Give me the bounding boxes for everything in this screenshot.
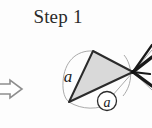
right-arrow-outline-icon <box>0 80 22 98</box>
figure-panel: Step 1 <box>0 0 152 128</box>
angle-label: a <box>104 95 111 110</box>
geometry-diagram: a a <box>0 0 152 128</box>
side-length-label: a <box>64 67 73 86</box>
angle-label-group: a <box>98 92 117 111</box>
converging-rays <box>131 45 152 86</box>
